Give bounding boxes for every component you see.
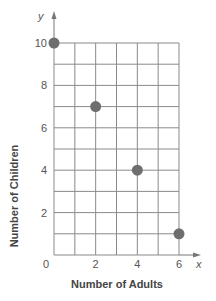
scatter-chart: 0246246810 y x Number of Adults Number o… bbox=[0, 0, 216, 301]
y-axis-title: Number of Children bbox=[8, 144, 20, 247]
y-tick-label: 8 bbox=[41, 79, 47, 91]
x-tick-label: 2 bbox=[93, 258, 99, 270]
x-tick-label: 6 bbox=[176, 258, 182, 270]
x-axis-title: Number of Adults bbox=[71, 278, 163, 290]
tick-labels: 0246246810 bbox=[35, 37, 182, 270]
x-variable-label: x bbox=[195, 258, 202, 270]
x-tick-label: 0 bbox=[43, 258, 49, 270]
x-tick-label: 4 bbox=[134, 258, 140, 270]
data-point bbox=[174, 228, 185, 239]
y-tick-label: 4 bbox=[41, 164, 47, 176]
y-axis-arrow-icon bbox=[52, 11, 57, 19]
data-point bbox=[90, 101, 101, 112]
y-tick-label: 2 bbox=[41, 207, 47, 219]
y-tick-label: 6 bbox=[41, 122, 47, 134]
y-tick-label: 10 bbox=[35, 37, 47, 49]
x-axis-arrow-icon bbox=[193, 253, 201, 258]
data-point bbox=[49, 38, 60, 49]
y-variable-label: y bbox=[37, 10, 45, 22]
chart-grid bbox=[54, 43, 179, 255]
data-point bbox=[132, 165, 143, 176]
